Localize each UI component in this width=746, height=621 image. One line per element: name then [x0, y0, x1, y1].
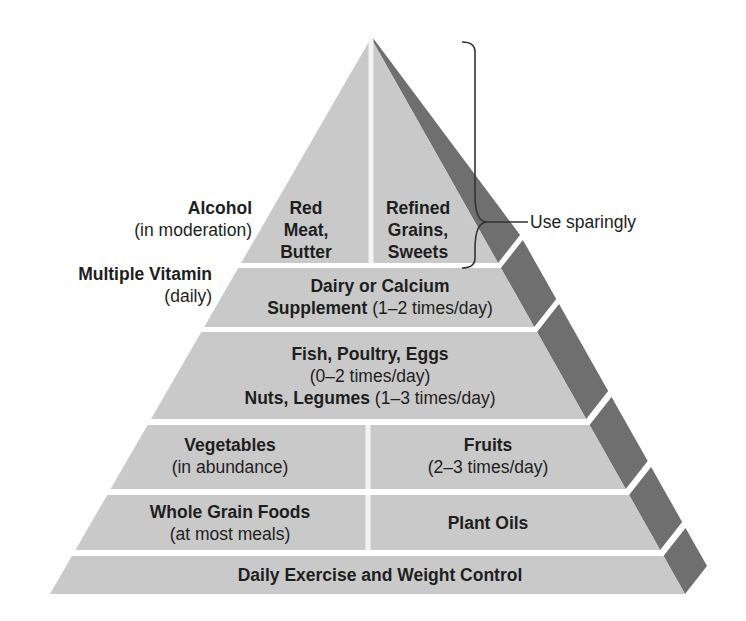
- side-label-alcohol: Alcohol (in moderation): [40, 197, 252, 241]
- tier4-vegetables: Vegetables (in abundance): [130, 434, 330, 478]
- tier3-protein: Fish, Poultry, Eggs (0–2 times/day) Nuts…: [200, 343, 540, 409]
- use-sparingly-label: Use sparingly: [530, 211, 636, 233]
- tier2-dairy-calcium: Dairy or Calcium Supplement (1–2 times/d…: [230, 275, 530, 319]
- tier6-exercise-weight-control: Daily Exercise and Weight Control: [100, 564, 660, 586]
- tier1-red-meat-butter: Red Meat, Butter: [264, 197, 348, 263]
- tier5-whole-grain-foods: Whole Grain Foods (at most meals): [115, 501, 345, 545]
- tier5-plant-oils: Plant Oils: [388, 512, 588, 534]
- tier1-refined-grains-sweets: Refined Grains, Sweets: [368, 197, 468, 263]
- side-label-multiple-vitamin: Multiple Vitamin (daily): [0, 263, 212, 307]
- tier4-fruits: Fruits (2–3 times/day): [388, 434, 588, 478]
